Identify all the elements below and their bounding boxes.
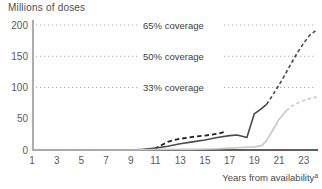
x-tick-7: 7 [103, 155, 109, 166]
doses-coverage-chart: Millions of doses 65% coverage50% covera… [0, 0, 322, 189]
coverage-label-150: 50% coverage [143, 51, 204, 62]
x-tick-9: 9 [128, 155, 134, 166]
series-light-line-actual [32, 111, 286, 150]
x-tick-5: 5 [79, 155, 85, 166]
series-dark-line-actual [32, 104, 267, 150]
series-dark-line-projection [267, 29, 318, 104]
x-tick-17: 17 [224, 155, 236, 166]
x-tick-23: 23 [298, 155, 310, 166]
x-tick-3: 3 [54, 155, 60, 166]
x-tick-15: 15 [199, 155, 211, 166]
x-tick-19: 19 [249, 155, 261, 166]
y-tick-200: 200 [11, 20, 28, 31]
y-tick-0: 0 [22, 145, 28, 156]
y-tick-150: 150 [11, 51, 28, 62]
x-tick-11: 11 [150, 155, 161, 166]
x-tick-1: 1 [29, 155, 35, 166]
x-axis-title: Years from availabilitya [222, 172, 318, 183]
y-tick-100: 100 [11, 82, 28, 93]
coverage-gridlines: 65% coverage50% coverage33% coverage [36, 19, 316, 94]
series-light-line-projection [286, 97, 317, 111]
x-axis-ticks: 1357911131517192123 [29, 155, 309, 166]
x-axis-title-footnote-marker: a [314, 172, 318, 179]
chart-canvas: 65% coverage50% coverage33% coverage 050… [0, 0, 322, 189]
coverage-label-100: 33% coverage [143, 82, 204, 93]
x-axis-title-text: Years from availability [222, 172, 314, 183]
x-tick-13: 13 [175, 155, 187, 166]
y-axis-ticks: 050100150200 [11, 20, 28, 156]
coverage-label-200: 65% coverage [143, 20, 204, 31]
x-tick-21: 21 [273, 155, 285, 166]
y-tick-50: 50 [17, 113, 29, 124]
